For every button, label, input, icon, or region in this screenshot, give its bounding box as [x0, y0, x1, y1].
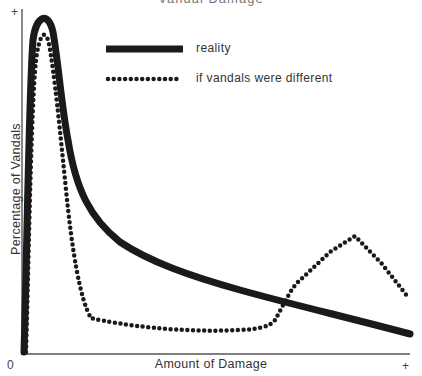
chart-plot-area	[0, 0, 422, 376]
y-axis-label: Percentage of Vandals	[9, 89, 23, 289]
series-reality-line	[24, 18, 410, 352]
x-axis-label: Amount of Damage	[0, 357, 422, 371]
legend-label-reality: reality	[196, 41, 231, 55]
y-axis-max-tick: +	[11, 5, 18, 19]
legend-label-if-vandals-were-different: if vandals were different	[196, 71, 333, 85]
